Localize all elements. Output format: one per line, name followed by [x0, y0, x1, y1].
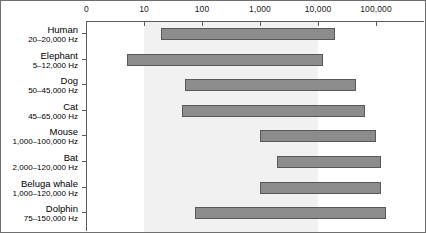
- animal-name: Mouse: [0, 126, 78, 137]
- row-label: Cat45–65,000 Hz: [0, 101, 78, 122]
- x-axis-line: [86, 21, 424, 22]
- x-tick-label: 10,000: [305, 4, 332, 14]
- row-tick-mark: [82, 187, 86, 188]
- hearing-range-bar: [260, 182, 381, 194]
- frequency-range-label: 75–150,000 Hz: [0, 214, 78, 224]
- hearing-range-bar: [277, 156, 380, 168]
- row-tick-mark: [82, 110, 86, 111]
- hearing-range-chart: 0101001,00010,000100,000 Human20–20,000 …: [0, 0, 426, 233]
- row-label: Human20–20,000 Hz: [0, 24, 78, 45]
- animal-name: Dog: [0, 75, 78, 86]
- row-tick-mark: [82, 84, 86, 85]
- bar-row: Beluga whale1,000–120,000 Hz: [0, 178, 426, 204]
- x-tick-label: 10: [139, 4, 149, 14]
- bar-row: Human20–20,000 Hz: [0, 24, 426, 50]
- row-tick-mark: [82, 212, 86, 213]
- row-label: Dolphin75–150,000 Hz: [0, 203, 78, 224]
- frequency-range-label: 1,000–100,000 Hz: [0, 137, 78, 147]
- row-tick-mark: [82, 135, 86, 136]
- animal-name: Human: [0, 24, 78, 35]
- row-tick-mark: [82, 59, 86, 60]
- hearing-range-bar: [127, 54, 323, 66]
- row-label: Elephant5–12,000 Hz: [0, 50, 78, 71]
- bar-row: Mouse1,000–100,000 Hz: [0, 126, 426, 152]
- hearing-range-bar: [161, 28, 335, 40]
- frequency-range-label: 2,000–120,000 Hz: [0, 163, 78, 173]
- frequency-range-label: 5–12,000 Hz: [0, 61, 78, 71]
- bar-row: Dolphin75–150,000 Hz: [0, 203, 426, 229]
- hearing-range-bar: [182, 105, 365, 117]
- row-label: Mouse1,000–100,000 Hz: [0, 126, 78, 147]
- row-tick-mark: [82, 33, 86, 34]
- frequency-range-label: 45–65,000 Hz: [0, 112, 78, 122]
- hearing-range-bar: [195, 207, 386, 219]
- bar-row: Dog50–45,000 Hz: [0, 75, 426, 101]
- hearing-range-bar: [185, 79, 356, 91]
- animal-name: Elephant: [0, 50, 78, 61]
- frequency-range-label: 50–45,000 Hz: [0, 86, 78, 96]
- animal-name: Cat: [0, 101, 78, 112]
- row-label: Dog50–45,000 Hz: [0, 75, 78, 96]
- x-tick-label: 100: [195, 4, 209, 14]
- frequency-range-label: 20–20,000 Hz: [0, 35, 78, 45]
- hearing-range-bar: [260, 130, 376, 142]
- row-label: Bat2,000–120,000 Hz: [0, 152, 78, 173]
- bar-row: Elephant5–12,000 Hz: [0, 50, 426, 76]
- animal-name: Beluga whale: [0, 178, 78, 189]
- frequency-range-label: 1,000–120,000 Hz: [0, 189, 78, 199]
- row-label: Beluga whale1,000–120,000 Hz: [0, 178, 78, 199]
- x-tick-label: 1,000: [249, 4, 271, 14]
- x-tick-label: 0: [84, 4, 89, 14]
- animal-name: Dolphin: [0, 203, 78, 214]
- bar-row: Bat2,000–120,000 Hz: [0, 152, 426, 178]
- x-tick-label: 100,000: [360, 4, 391, 14]
- row-tick-mark: [82, 161, 86, 162]
- bar-row: Cat45–65,000 Hz: [0, 101, 426, 127]
- animal-name: Bat: [0, 152, 78, 163]
